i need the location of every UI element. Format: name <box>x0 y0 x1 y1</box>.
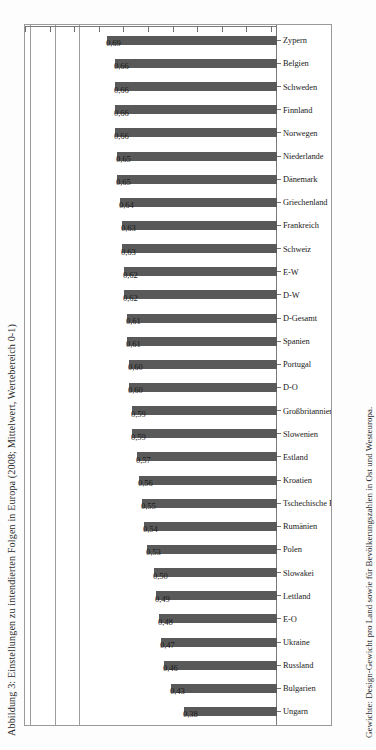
category-tick-slot: Griechenland <box>277 191 332 214</box>
category-tick-slot: Lettland <box>277 584 332 607</box>
bar <box>161 638 277 647</box>
category-label: Rumänien <box>283 522 317 531</box>
category-tick <box>277 480 281 481</box>
category-tick <box>277 595 281 596</box>
category-tick <box>277 526 281 527</box>
category-tick <box>277 549 281 550</box>
bar <box>127 314 277 323</box>
bar-slot: 0,62 <box>31 260 277 283</box>
category-tick-slot: Rumänien <box>277 515 332 538</box>
category-tick <box>277 618 281 619</box>
category-label: Estland <box>283 453 308 462</box>
bar <box>122 244 277 253</box>
category-tick <box>277 387 281 388</box>
figure-page: Abbildung 3: Einstellungen zu intendiert… <box>0 0 376 750</box>
category-tick-slot: Belgien <box>277 52 332 75</box>
category-label: Schweden <box>283 83 317 92</box>
bar-slot: 0,55 <box>31 492 277 515</box>
figure-title: Abbildung 3: Einstellungen zu intendiert… <box>0 0 22 750</box>
bar-slot: 0,60 <box>31 376 277 399</box>
category-tick <box>277 109 281 110</box>
bar-value-label: 0,66 <box>114 85 129 95</box>
category-label: Russland <box>283 661 313 670</box>
category-tick-slot: Zypern <box>277 29 332 52</box>
category-tick-slot: Portugal <box>277 353 332 376</box>
category-tick <box>277 202 281 203</box>
category-label: Ungarn <box>283 707 308 716</box>
bar <box>137 452 277 461</box>
category-label: Griechenland <box>283 198 328 207</box>
bar <box>164 661 277 670</box>
category-tick <box>277 364 281 365</box>
bar-slot: 0,38 <box>31 700 277 723</box>
category-tick-slot: Tschechische Republik <box>277 492 332 515</box>
category-label: D-W <box>283 291 300 300</box>
bar-value-label: 0,62 <box>123 293 138 303</box>
category-tick <box>277 156 281 157</box>
category-label: Lettland <box>283 592 311 601</box>
bar-value-label: 0,57 <box>136 455 151 465</box>
category-label: Großbritannien <box>283 407 332 416</box>
category-tick <box>277 294 281 295</box>
category-label: Spanien <box>283 337 310 346</box>
category-label: Bulgarien <box>283 684 316 693</box>
bar-slot: 0,66 <box>31 75 277 98</box>
category-tick-slot: Ungarn <box>277 700 332 723</box>
bar-slot: 0,59 <box>31 422 277 445</box>
category-tick <box>277 503 281 504</box>
bar-slot: 0,61 <box>31 330 277 353</box>
category-tick-slot: Ukraine <box>277 630 332 653</box>
category-tick <box>277 318 281 319</box>
category-tick <box>277 642 281 643</box>
category-tick <box>277 271 281 272</box>
category-tick <box>277 665 281 666</box>
bar-value-label: 0,47 <box>160 640 175 650</box>
category-tick-slot: Slowenien <box>277 422 332 445</box>
bar-slot: 0,62 <box>31 283 277 306</box>
figure-source-caption: Gewichte: Design-Gewicht pro Land sowie … <box>360 0 376 750</box>
category-tick <box>277 410 281 411</box>
category-tick-slot: E-O <box>277 607 332 630</box>
bar-value-label: 0,66 <box>114 108 129 118</box>
category-label: E-W <box>283 268 299 277</box>
category-tick <box>277 86 281 87</box>
bar-slot: 0,59 <box>31 399 277 422</box>
bar <box>159 614 277 623</box>
category-tick <box>277 688 281 689</box>
category-tick <box>277 179 281 180</box>
category-label: Dänemark <box>283 175 317 184</box>
category-tick-slot: Dänemark <box>277 168 332 191</box>
bar-slot: 0,66 <box>31 98 277 121</box>
bar <box>115 59 277 68</box>
category-label: Kroatien <box>283 476 312 485</box>
bar-slot: 0,69 <box>31 29 277 52</box>
bar-slot: 0,60 <box>31 353 277 376</box>
bar-value-label: 0,60 <box>128 362 143 372</box>
bar-slot: 0,54 <box>31 515 277 538</box>
bar-value-label: 0,65 <box>116 154 131 164</box>
bar-value-label: 0,69 <box>106 38 121 48</box>
bar <box>122 221 277 230</box>
bar <box>132 406 277 415</box>
category-label: Slowenien <box>283 430 318 439</box>
bar-slot: 0,43 <box>31 677 277 700</box>
bar-slot: 0,50 <box>31 561 277 584</box>
category-label: Polen <box>283 545 302 554</box>
category-tick-slot: D-Gesamt <box>277 306 332 329</box>
bar-value-label: 0,46 <box>163 663 178 673</box>
category-tick-slot: E-W <box>277 260 332 283</box>
bar-value-label: 0,53 <box>146 547 161 557</box>
bar-value-label: 0,38 <box>183 709 198 719</box>
category-tick-slot: Schweiz <box>277 237 332 260</box>
category-tick-slot: Estland <box>277 445 332 468</box>
category-label: Tschechische Republik <box>283 499 332 508</box>
category-tick <box>277 456 281 457</box>
category-label: Niederlande <box>283 152 323 161</box>
category-tick <box>277 40 281 41</box>
category-tick-slot: D-O <box>277 376 332 399</box>
plot-area: 0,380,430,460,470,480,490,500,530,540,55… <box>25 25 277 726</box>
bar-value-label: 0,60 <box>128 385 143 395</box>
bar-slot: 0,64 <box>31 191 277 214</box>
category-tick-slot: Niederlande <box>277 144 332 167</box>
bar-slot: 0,57 <box>31 445 277 468</box>
